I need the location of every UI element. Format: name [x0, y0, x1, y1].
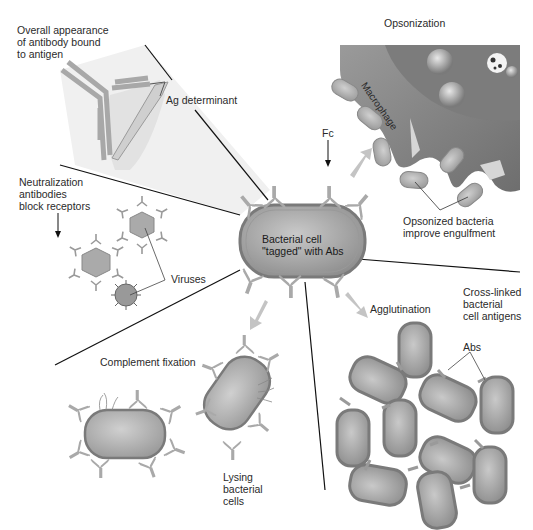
cross-linked-label: Cross-linked bacterial cell antigens [463, 286, 521, 322]
fc-label: Fc [322, 127, 334, 139]
antigen-binding-panel [60, 45, 270, 215]
agglutination-cluster [337, 323, 513, 530]
agglutination-title: Agglutination [370, 303, 431, 315]
opsonized-caption: Opsonized bacteria improve engulfment [403, 215, 495, 239]
diagram-canvas [0, 0, 533, 530]
opsonization-title: Opsonization [384, 17, 445, 29]
neutralization-title: Neutralization antibodies block receptor… [19, 176, 90, 212]
fc-arrow [325, 140, 331, 167]
abs-label: Abs [463, 341, 481, 353]
complement-fixation-title: Complement fixation [100, 356, 196, 368]
lysing-cells-caption: Lysing bacterial cells [223, 471, 263, 507]
neutralization-viruses [55, 196, 170, 310]
bacterial-cell-label: Bacterial cell "tagged" with Abs [262, 233, 344, 257]
ag-determinant-label: Ag determinant [166, 94, 237, 106]
viruses-label: Viruses [171, 273, 206, 285]
antigen-binding-title: Overall appearance of antibody bound to … [17, 24, 109, 60]
central-bacterial-cell [234, 186, 376, 330]
